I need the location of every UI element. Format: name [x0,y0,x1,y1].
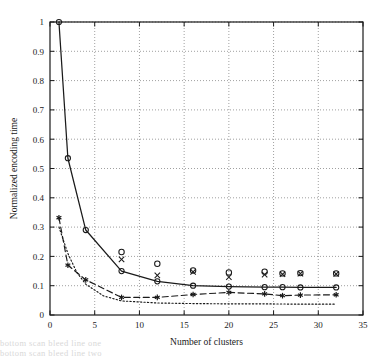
x-tick-label: 30 [314,320,324,330]
x-tick-label: 20 [224,320,234,330]
x-tick-label: 35 [359,320,369,330]
chart-figure: 0510152025303500.10.20.30.40.50.60.70.80… [0,0,385,357]
x-tick-label: 5 [92,320,97,330]
y-tick-label: 0.7 [33,105,45,115]
x-tick-label: 0 [48,320,53,330]
y-tick-label: 0.3 [33,222,45,232]
scan-bleed-line-1: bottom scan bleed line one [0,338,385,348]
y-tick-label: 1 [40,17,45,27]
x-tick-label: 10 [135,320,145,330]
encoding-time-line-chart: 0510152025303500.10.20.30.40.50.60.70.80… [0,0,385,357]
x-tick-label: 15 [180,320,190,330]
y-tick-label: 0.8 [33,76,45,86]
y-tick-label: 0.2 [33,252,44,262]
y-tick-label: 0.1 [33,281,44,291]
y-axis-title: Normalized encoding time [9,118,19,219]
y-tick-label: 0 [40,310,45,320]
scan-bleed-line-2: bottom scan bleed line two [0,348,385,357]
y-tick-label: 0.9 [33,47,45,57]
x-tick-label: 25 [269,320,279,330]
y-tick-label: 0.4 [33,193,45,203]
y-tick-label: 0.5 [33,164,45,174]
y-tick-label: 0.6 [33,135,45,145]
